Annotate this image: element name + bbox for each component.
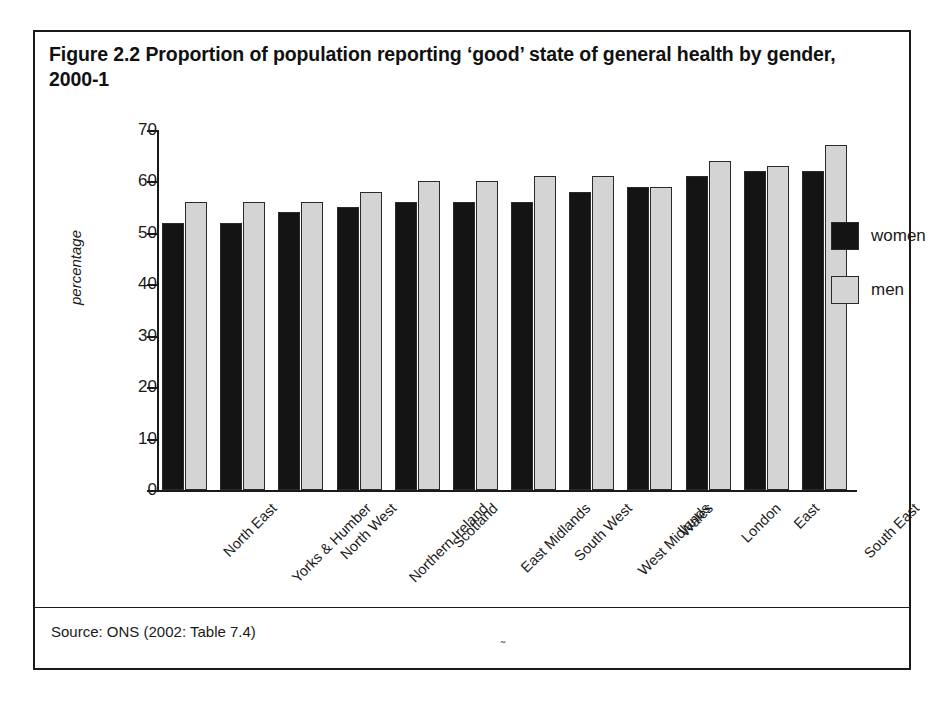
bar-women bbox=[802, 171, 824, 490]
bar-men bbox=[534, 176, 556, 490]
source-note: Source: ONS (2002: Table 7.4) bbox=[51, 623, 256, 640]
y-axis-tick-label: 30 bbox=[113, 326, 157, 346]
y-axis-tick-label: 10 bbox=[113, 429, 157, 449]
x-axis-line bbox=[157, 490, 857, 492]
bar-men bbox=[360, 192, 382, 490]
x-axis-label: North East bbox=[220, 500, 280, 560]
legend-swatch-women bbox=[831, 222, 859, 250]
bar-men bbox=[301, 202, 323, 490]
bar-men bbox=[709, 161, 731, 490]
y-axis-tick-label: 0 bbox=[113, 480, 157, 500]
bar-men bbox=[592, 176, 614, 490]
bar-men bbox=[243, 202, 265, 490]
bar-group bbox=[275, 130, 333, 490]
bar-group bbox=[624, 130, 682, 490]
page-mark: ˜ bbox=[501, 639, 505, 654]
y-axis-title: percentage bbox=[67, 230, 84, 305]
bar-men bbox=[476, 181, 498, 490]
x-axis-label: East bbox=[790, 500, 822, 532]
bar-men bbox=[650, 187, 672, 490]
bar-men bbox=[767, 166, 789, 490]
bar-group bbox=[741, 130, 799, 490]
y-axis-tick-label: 50 bbox=[113, 223, 157, 243]
bar-men bbox=[185, 202, 207, 490]
bar-women bbox=[686, 176, 708, 490]
bar-women bbox=[162, 223, 184, 490]
chart-legend: womenmen bbox=[831, 222, 947, 330]
figure-frame: Figure 2.2 Proportion of population repo… bbox=[33, 30, 911, 670]
legend-entry-women: women bbox=[831, 222, 947, 250]
y-axis-tick-label: 60 bbox=[113, 171, 157, 191]
bar-group bbox=[683, 130, 741, 490]
bar-group bbox=[508, 130, 566, 490]
legend-entry-men: men bbox=[831, 276, 947, 304]
bar-women bbox=[627, 187, 649, 490]
bar-women bbox=[453, 202, 475, 490]
y-axis-tick-label: 20 bbox=[113, 377, 157, 397]
figure-title: Figure 2.2 Proportion of population repo… bbox=[49, 42, 849, 92]
y-axis-tick-label: 70 bbox=[113, 120, 157, 140]
bar-group bbox=[217, 130, 275, 490]
legend-label-women: women bbox=[871, 226, 926, 246]
bar-women bbox=[395, 202, 417, 490]
y-axis-tick-label: 40 bbox=[113, 274, 157, 294]
chart-plot-area: percentage 010203040506070 North EastYor… bbox=[95, 130, 890, 500]
x-axis-label: London bbox=[738, 500, 784, 546]
bar-women bbox=[220, 223, 242, 490]
bars-layer bbox=[159, 130, 857, 490]
bar-women bbox=[744, 171, 766, 490]
source-divider bbox=[35, 607, 909, 608]
bar-group bbox=[334, 130, 392, 490]
bar-women bbox=[511, 202, 533, 490]
bar-group bbox=[450, 130, 508, 490]
bar-group bbox=[566, 130, 624, 490]
bar-women bbox=[569, 192, 591, 490]
bar-women bbox=[337, 207, 359, 490]
bar-group bbox=[392, 130, 450, 490]
bar-group bbox=[159, 130, 217, 490]
legend-swatch-men bbox=[831, 276, 859, 304]
x-axis-label: South East bbox=[861, 500, 922, 561]
bar-men bbox=[418, 181, 440, 490]
bar-women bbox=[278, 212, 300, 490]
legend-label-men: men bbox=[871, 280, 904, 300]
